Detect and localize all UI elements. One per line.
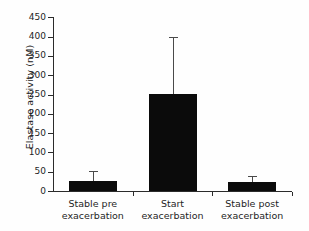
category-label-line2: exacerbation bbox=[53, 210, 133, 222]
x-axis-line bbox=[53, 191, 292, 192]
category-label-line2: exacerbation bbox=[212, 210, 292, 222]
y-tick-label: 300 bbox=[14, 71, 46, 80]
y-tick-label-text: 150 bbox=[14, 129, 46, 138]
y-tick-mark bbox=[48, 95, 53, 96]
category-label-line1: Stable pre bbox=[53, 198, 133, 210]
category-label: Startexacerbation bbox=[133, 198, 213, 221]
y-tick-label: 250 bbox=[14, 90, 46, 99]
y-tick-label: 400 bbox=[14, 32, 46, 41]
y-tick-label-text: 350 bbox=[14, 51, 46, 60]
y-tick-label-text: 400 bbox=[14, 32, 46, 41]
y-tick-label: 350 bbox=[14, 51, 46, 60]
error-bar-cap bbox=[248, 176, 257, 177]
y-tick-mark bbox=[48, 152, 53, 153]
y-tick-label-text: 450 bbox=[14, 13, 46, 22]
error-bar-line bbox=[93, 171, 94, 181]
y-tick-mark bbox=[48, 133, 53, 134]
y-tick-label: 450 bbox=[14, 13, 46, 22]
y-tick-label-text: 200 bbox=[14, 109, 46, 118]
category-label: Stable postexacerbation bbox=[212, 198, 292, 221]
chart-figure: Elastase activity (nM) 05010015020025030… bbox=[0, 0, 309, 231]
y-tick-label: 50 bbox=[14, 167, 46, 176]
x-tick-mark bbox=[133, 192, 134, 196]
y-tick-label: 200 bbox=[14, 109, 46, 118]
y-tick-label-text: 300 bbox=[14, 71, 46, 80]
x-tick-mark bbox=[212, 192, 213, 196]
bar bbox=[228, 182, 276, 191]
y-tick-mark bbox=[48, 191, 53, 192]
error-bar-cap bbox=[169, 37, 178, 38]
y-tick-mark bbox=[48, 75, 53, 76]
y-tick-mark bbox=[48, 172, 53, 173]
category-label-line1: Start bbox=[133, 198, 213, 210]
y-tick-label-text: 100 bbox=[14, 148, 46, 157]
error-bar-line bbox=[173, 37, 174, 94]
y-tick-label-text: 0 bbox=[14, 187, 46, 196]
category-label-line1: Stable post bbox=[212, 198, 292, 210]
y-tick-label-text: 50 bbox=[14, 167, 46, 176]
bar bbox=[69, 181, 117, 191]
category-label: Stable preexacerbation bbox=[53, 198, 133, 221]
y-tick-label: 150 bbox=[14, 129, 46, 138]
y-tick-label: 100 bbox=[14, 148, 46, 157]
y-tick-mark bbox=[48, 37, 53, 38]
y-tick-mark bbox=[48, 56, 53, 57]
y-tick-mark bbox=[48, 17, 53, 18]
x-tick-mark bbox=[292, 192, 293, 196]
bar bbox=[149, 94, 197, 191]
category-label-line2: exacerbation bbox=[133, 210, 213, 222]
y-axis-line bbox=[53, 17, 54, 192]
y-tick-label: 0 bbox=[14, 187, 46, 196]
y-tick-mark bbox=[48, 114, 53, 115]
y-tick-label-text: 250 bbox=[14, 90, 46, 99]
error-bar-cap bbox=[89, 171, 98, 172]
